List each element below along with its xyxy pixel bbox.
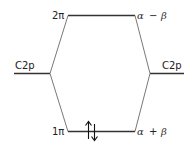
- connector-right-bottom: [135, 74, 150, 132]
- label-alpha-top: α: [137, 10, 144, 21]
- label-beta-top: β: [160, 10, 167, 21]
- label-2pi: 2π: [52, 10, 64, 21]
- mo-diagram: 2π 1π C2p C2p α − β α + β: [0, 0, 193, 151]
- label-1pi: 1π: [52, 126, 64, 137]
- label-plus: +: [149, 126, 157, 137]
- label-minus: −: [149, 10, 157, 21]
- connector-left-top: [50, 16, 68, 74]
- label-left-c2p: C2p: [15, 60, 35, 71]
- label-right-c2p: C2p: [162, 60, 182, 71]
- label-alpha-bottom: α: [137, 126, 144, 137]
- connector-left-bottom: [50, 74, 68, 132]
- connector-right-top: [135, 16, 150, 74]
- label-beta-bottom: β: [160, 126, 167, 137]
